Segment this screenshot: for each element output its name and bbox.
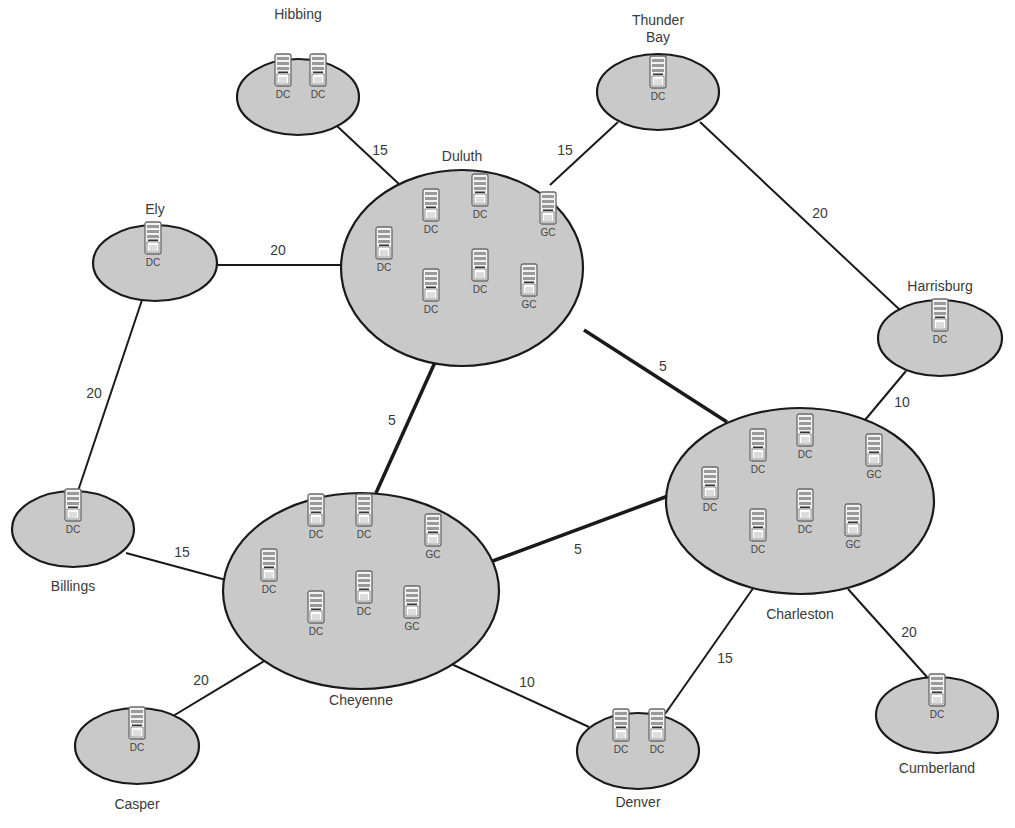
- server-role-label: DC: [793, 449, 817, 460]
- server-icon: [517, 263, 541, 297]
- site-name-ely: Ely: [145, 201, 164, 218]
- server-role-label: DC: [352, 529, 376, 540]
- domain-controller-server: DC: [257, 548, 281, 595]
- domain-controller-server: DC: [352, 493, 376, 540]
- server-role-label: GC: [400, 621, 424, 632]
- server-icon: [928, 298, 952, 332]
- server-role-label: DC: [645, 744, 669, 755]
- server-role-label: DC: [609, 744, 633, 755]
- server-role-label: DC: [352, 606, 376, 617]
- server-icon: [925, 673, 949, 707]
- site-name-billings: Billings: [51, 578, 95, 595]
- site-hibbing: [237, 59, 359, 135]
- server-icon: [746, 428, 770, 462]
- server-icon: [468, 173, 492, 207]
- site-name-duluth: Duluth: [442, 148, 482, 165]
- link-cost-label: 15: [717, 650, 733, 666]
- server-icon: [862, 433, 886, 467]
- server-role-label: DC: [306, 89, 330, 100]
- server-role-label: DC: [125, 742, 149, 753]
- domain-controller-server: DC: [646, 55, 670, 102]
- link-cost-label: 15: [557, 142, 573, 158]
- domain-controller-server: DC: [468, 248, 492, 295]
- domain-controller-server: DC: [419, 268, 443, 315]
- server-icon: [645, 708, 669, 742]
- site-name-casper: Casper: [114, 796, 159, 813]
- domain-controller-server: DC: [925, 673, 949, 720]
- link-cost-label: 10: [519, 674, 535, 690]
- server-icon: [271, 53, 295, 87]
- link-cost-label: 15: [372, 142, 388, 158]
- domain-controller-server: DC: [61, 488, 85, 535]
- link-hibbing-duluth: [337, 126, 400, 185]
- domain-controller-server: DC: [609, 708, 633, 755]
- domain-controller-server: DC: [372, 226, 396, 273]
- domain-controller-server: DC: [352, 570, 376, 617]
- server-role-label: DC: [419, 224, 443, 235]
- server-icon: [468, 248, 492, 282]
- link-duluth-cheyenne: [376, 360, 436, 493]
- domain-controller-server: DC: [746, 428, 770, 475]
- server-role-label: DC: [793, 524, 817, 535]
- server-icon: [536, 191, 560, 225]
- link-cost-label: 15: [174, 544, 190, 560]
- link-cost-label: 5: [659, 358, 667, 374]
- server-icon: [609, 708, 633, 742]
- domain-controller-server: DC: [304, 493, 328, 540]
- link-cheyenne-casper: [173, 660, 266, 716]
- domain-controller-server: DC: [306, 53, 330, 100]
- server-icon: [125, 706, 149, 740]
- global-catalog-server: GC: [536, 191, 560, 238]
- site-name-harrisburg: Harrisburg: [907, 278, 972, 295]
- server-icon: [841, 503, 865, 537]
- server-icon: [306, 53, 330, 87]
- domain-controller-server: DC: [271, 53, 295, 100]
- link-duluth-charleston: [584, 330, 727, 422]
- link-cheyenne-denver: [447, 662, 589, 727]
- domain-controller-server: DC: [419, 188, 443, 235]
- site-topology-diagram: [0, 0, 1015, 828]
- domain-controller-server: DC: [141, 221, 165, 268]
- server-role-label: DC: [746, 464, 770, 475]
- server-role-label: GC: [536, 227, 560, 238]
- server-icon: [646, 55, 670, 89]
- server-role-label: DC: [304, 626, 328, 637]
- site-name-charleston: Charleston: [766, 606, 834, 623]
- server-role-label: DC: [698, 502, 722, 513]
- server-icon: [793, 488, 817, 522]
- link-cost-label: 20: [86, 385, 102, 401]
- link-cost-label: 20: [270, 242, 286, 258]
- site-name-thunderbay: Thunder Bay: [632, 12, 684, 46]
- server-icon: [141, 221, 165, 255]
- global-catalog-server: GC: [862, 433, 886, 480]
- server-role-label: GC: [421, 549, 445, 560]
- server-role-label: DC: [468, 284, 492, 295]
- link-cost-label: 20: [812, 205, 828, 221]
- global-catalog-server: GC: [421, 513, 445, 560]
- site-name-cheyenne: Cheyenne: [329, 692, 393, 709]
- server-role-label: DC: [304, 529, 328, 540]
- server-role-label: GC: [841, 539, 865, 550]
- domain-controller-server: DC: [928, 298, 952, 345]
- sites: [12, 54, 1002, 789]
- site-denver: [577, 713, 699, 789]
- site-name-denver: Denver: [615, 794, 660, 811]
- server-icon: [419, 268, 443, 302]
- link-cost-label: 10: [894, 394, 910, 410]
- domain-controller-server: DC: [125, 706, 149, 753]
- domain-controller-server: DC: [793, 413, 817, 460]
- link-cost-label: 5: [388, 412, 396, 428]
- server-icon: [793, 413, 817, 447]
- server-icon: [400, 585, 424, 619]
- server-icon: [372, 226, 396, 260]
- server-role-label: DC: [372, 262, 396, 273]
- link-cost-label: 20: [901, 624, 917, 640]
- global-catalog-server: GC: [841, 503, 865, 550]
- server-role-label: DC: [928, 334, 952, 345]
- server-role-label: DC: [61, 524, 85, 535]
- server-icon: [352, 570, 376, 604]
- link-cost-label: 5: [574, 541, 582, 557]
- server-role-label: DC: [419, 304, 443, 315]
- domain-controller-server: DC: [468, 173, 492, 220]
- server-icon: [304, 590, 328, 624]
